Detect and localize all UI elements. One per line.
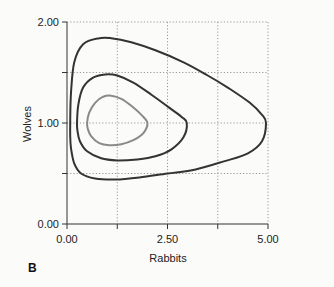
y-tick-label: 1.00 bbox=[38, 117, 59, 129]
grid-lines bbox=[67, 22, 268, 224]
axes bbox=[67, 22, 268, 224]
orbit-middle bbox=[77, 74, 187, 160]
y-tick-label: 2.00 bbox=[38, 16, 59, 28]
x-tick-label: 0.00 bbox=[56, 233, 77, 245]
x-tick-label: 2.50 bbox=[157, 233, 178, 245]
phase-plane-chart: 0.002.505.000.001.002.00 Rabbits Wolves … bbox=[0, 0, 334, 287]
orbit-curves bbox=[70, 38, 266, 180]
y-axis-title: Wolves bbox=[21, 106, 33, 142]
x-tick-label: 5.00 bbox=[257, 233, 278, 245]
y-tick-label: 0.00 bbox=[38, 218, 59, 230]
x-axis-title: Rabbits bbox=[149, 252, 187, 264]
panel-label: B bbox=[28, 261, 37, 275]
